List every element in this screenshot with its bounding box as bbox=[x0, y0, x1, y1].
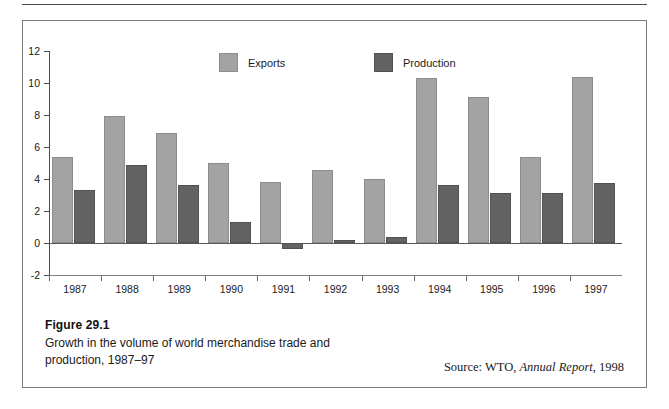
zero-baseline bbox=[49, 243, 622, 244]
legend-item-exports: Exports bbox=[219, 53, 285, 72]
x-axis-label-1987: 1987 bbox=[63, 283, 86, 296]
y-tick-label: 6 bbox=[34, 141, 40, 154]
x-axis-label-1989: 1989 bbox=[168, 283, 191, 296]
y-tick: 8 bbox=[44, 115, 49, 116]
y-tick: 6 bbox=[44, 147, 49, 148]
x-tick bbox=[205, 275, 206, 281]
x-tick bbox=[466, 275, 467, 281]
bar-production-1989 bbox=[178, 185, 199, 243]
y-tick-label: 10 bbox=[28, 77, 40, 90]
y-tick-label: 0 bbox=[34, 237, 40, 250]
y-tick-label: 4 bbox=[34, 173, 40, 186]
x-tick bbox=[309, 275, 310, 281]
legend-item-production: Production bbox=[374, 53, 456, 72]
figure-description: Growth in the volume of world merchandis… bbox=[45, 335, 345, 369]
top-rule-divider bbox=[22, 4, 647, 5]
x-axis-label-1995: 1995 bbox=[480, 283, 503, 296]
figure-number: Figure 29.1 bbox=[45, 317, 475, 334]
x-axis-label-1990: 1990 bbox=[220, 283, 243, 296]
y-tick: 10 bbox=[44, 83, 49, 84]
bar-exports-1992 bbox=[312, 170, 333, 243]
source-suffix: , 1998 bbox=[593, 360, 624, 374]
x-tick bbox=[362, 275, 363, 281]
source-prefix: Source: WTO, bbox=[444, 360, 516, 374]
x-axis-label-1988: 1988 bbox=[115, 283, 138, 296]
x-tick bbox=[49, 275, 50, 281]
chart-area: -2024681012 1987198819891990199119921993… bbox=[23, 21, 648, 283]
bar-exports-1997 bbox=[572, 77, 593, 243]
bar-exports-1988 bbox=[104, 116, 125, 243]
source-publication: Annual Report bbox=[519, 360, 592, 374]
bar-production-1996 bbox=[542, 193, 563, 243]
x-axis-line bbox=[49, 275, 622, 276]
x-tick bbox=[570, 275, 571, 281]
y-tick: 2 bbox=[44, 211, 49, 212]
x-axis-label-1994: 1994 bbox=[428, 283, 451, 296]
x-tick bbox=[518, 275, 519, 281]
bar-production-1987 bbox=[74, 190, 95, 243]
y-tick-label: 12 bbox=[28, 45, 40, 58]
bar-exports-1996 bbox=[520, 157, 541, 243]
bar-production-1995 bbox=[490, 193, 511, 243]
bar-production-1994 bbox=[438, 185, 459, 243]
y-tick-label: -2 bbox=[31, 269, 40, 282]
figure-page: -2024681012 1987198819891990199119921993… bbox=[0, 0, 669, 409]
bar-production-1992 bbox=[334, 240, 355, 243]
y-tick: 4 bbox=[44, 179, 49, 180]
x-axis-label-1992: 1992 bbox=[324, 283, 347, 296]
y-tick-label: 8 bbox=[34, 109, 40, 122]
bar-production-1993 bbox=[386, 237, 407, 243]
legend-label-production: Production bbox=[403, 56, 456, 70]
legend-label-exports: Exports bbox=[248, 56, 285, 70]
legend-swatch-production bbox=[374, 53, 393, 72]
x-axis-label-1993: 1993 bbox=[376, 283, 399, 296]
bar-exports-1994 bbox=[416, 78, 437, 243]
x-tick bbox=[414, 275, 415, 281]
bar-exports-1987 bbox=[52, 157, 73, 243]
y-tick: 0 bbox=[44, 243, 49, 244]
x-tick bbox=[153, 275, 154, 281]
x-axis-label-1996: 1996 bbox=[532, 283, 555, 296]
y-tick-label: 2 bbox=[34, 205, 40, 218]
bar-exports-1990 bbox=[208, 163, 229, 243]
x-axis-label-1991: 1991 bbox=[272, 283, 295, 296]
bar-exports-1989 bbox=[156, 133, 177, 243]
x-tick bbox=[101, 275, 102, 281]
plot-canvas: -2024681012 1987198819891990199119921993… bbox=[49, 51, 622, 275]
bar-production-1991 bbox=[282, 243, 303, 249]
chart-legend: ExportsProduction bbox=[49, 51, 622, 73]
x-tick bbox=[257, 275, 258, 281]
figure-frame: -2024681012 1987198819891990199119921993… bbox=[22, 20, 647, 388]
legend-swatch-exports bbox=[219, 53, 238, 72]
figure-source: Source: WTO, Annual Report, 1998 bbox=[444, 359, 624, 375]
bar-exports-1991 bbox=[260, 182, 281, 243]
bar-production-1990 bbox=[230, 222, 251, 243]
y-axis-line bbox=[49, 51, 50, 275]
bar-exports-1995 bbox=[468, 97, 489, 243]
bar-production-1988 bbox=[126, 165, 147, 243]
bar-production-1997 bbox=[594, 183, 615, 243]
x-axis-label-1997: 1997 bbox=[584, 283, 607, 296]
figure-caption: Figure 29.1 Growth in the volume of worl… bbox=[45, 317, 475, 369]
bar-exports-1993 bbox=[364, 179, 385, 243]
